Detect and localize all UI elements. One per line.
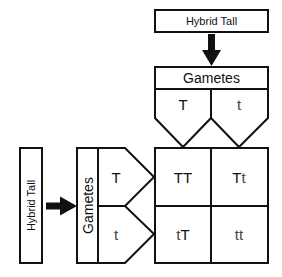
punnett-diagram: Hybrid Tall Gametes T t Hybrid Tall Game… [0, 0, 282, 277]
top-parent-box: Hybrid Tall [155, 10, 268, 32]
left-parent-label: Hybrid Tall [25, 180, 37, 231]
left-gamete-T: T [98, 148, 154, 206]
right-arrow-icon [46, 197, 77, 216]
top-parent-label: Hybrid Tall [186, 15, 237, 27]
left-gamete-T-label: T [111, 169, 120, 186]
top-gamete-T: T [155, 89, 211, 147]
top-gamete-t: t [211, 89, 268, 147]
top-gamete-T-label: T [178, 96, 187, 113]
top-gametes-header: Gametes [155, 67, 268, 89]
left-gametes-label: Gametes [80, 177, 96, 234]
grid-cell-0-1: Tt [232, 169, 246, 186]
down-arrow-icon [202, 34, 221, 66]
top-gametes-label: Gametes [183, 70, 240, 86]
left-gamete-t: t [98, 206, 154, 263]
grid-cell-1-0: tT [176, 226, 189, 243]
left-gametes-header: Gametes [77, 148, 98, 263]
left-parent-box: Hybrid Tall [20, 148, 42, 263]
grid-cell-1-1: tt [235, 226, 244, 243]
punnett-grid: TT Tt tT tt [155, 148, 268, 263]
grid-cell-0-0: TT [174, 169, 192, 186]
